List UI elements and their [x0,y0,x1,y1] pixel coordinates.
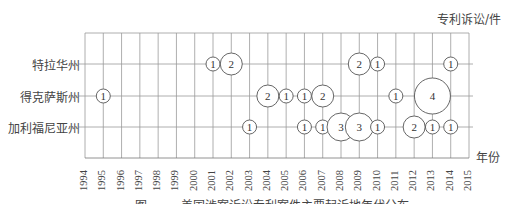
bubble-value: 1 [302,90,308,102]
x-tick-label: 2002 [224,170,235,191]
bubble-value: 1 [283,90,289,102]
row-label: 加利福尼亚州 [0,119,80,136]
x-tick-label: 2014 [444,170,455,191]
bubble-value: 4 [430,90,436,102]
x-tick-label: 2007 [316,170,327,191]
bubble-value: 1 [320,121,326,133]
bubble-value: 1 [247,121,253,133]
x-tick-label: 1995 [96,170,107,191]
bubble-value: 1 [448,58,454,70]
x-tick-label: 2001 [206,170,217,191]
x-tick-label: 2013 [425,170,436,191]
bubble-value: 1 [448,121,454,133]
chart-bubbles: 122111211214111331211 [96,53,457,141]
x-tick-label: 2006 [297,170,308,191]
x-tick-label: 2003 [243,170,254,191]
x-tick-label: 2012 [407,170,418,191]
x-tick-label: 1999 [169,170,180,191]
bubble-value: 2 [411,121,417,133]
y-unit-label: 专利诉讼/件 [437,10,501,27]
bubble-value: 1 [101,90,107,102]
figure-caption: 图 · · · · 美国涉案诉讼专利案件主要起诉地年代分布 [135,196,409,204]
bubble-value: 1 [375,121,381,133]
x-tick-label: 2000 [188,170,199,191]
bubble-value: 2 [320,90,326,102]
x-tick-label: 1997 [133,170,144,191]
row-label: 得克萨斯州 [0,88,80,105]
bubble-value: 1 [210,58,216,70]
x-tick-label: 2010 [371,170,382,191]
bubble-value: 1 [375,58,381,70]
bubble-value: 3 [357,121,363,133]
x-tick-label: 2015 [462,170,473,191]
x-tick-label: 1994 [78,170,89,191]
bubble-value: 2 [265,90,271,102]
bubble-value: 2 [229,58,235,70]
x-tick-label: 2008 [334,170,345,191]
x-tick-label: 2004 [261,170,272,191]
bubble-value: 2 [357,58,363,70]
x-tick-label: 2009 [352,170,363,191]
row-label: 特拉华州 [0,56,80,73]
x-tick-label: 2011 [389,170,400,191]
x-tick-label: 1996 [115,170,126,191]
bubble-value: 1 [430,121,436,133]
x-axis-title: 年份 [476,148,500,165]
bubble-value: 3 [338,121,344,133]
bubble-value: 1 [302,121,308,133]
bubble-value: 1 [393,90,399,102]
x-tick-label: 1998 [151,170,162,191]
x-tick-label: 2005 [279,170,290,191]
